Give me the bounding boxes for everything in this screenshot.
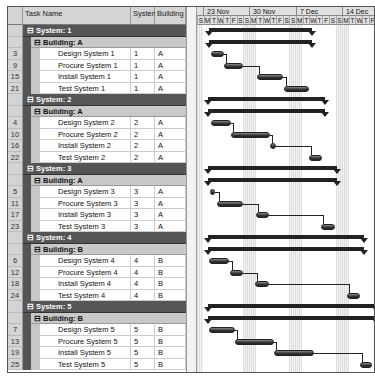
summary-bar[interactable] [208, 247, 364, 251]
summary-bar[interactable] [208, 97, 325, 101]
building-group-header[interactable]: ⊟Building: A [31, 175, 186, 187]
building-cell[interactable]: B [155, 267, 186, 279]
task-name-cell[interactable]: Procure System 5 [40, 336, 131, 348]
system-cell[interactable]: 3 [131, 186, 155, 198]
task-name-cell[interactable]: Test System 4 [40, 290, 131, 302]
task-name-cell[interactable]: Design System 5 [40, 324, 131, 336]
column-header-system[interactable]: System [131, 7, 155, 25]
system-cell[interactable]: 3 [131, 198, 155, 210]
row-number[interactable]: 7 [8, 324, 23, 336]
system-cell[interactable]: 5 [131, 324, 155, 336]
system-cell[interactable]: 4 [131, 278, 155, 290]
system-cell[interactable]: 1 [131, 71, 155, 83]
task-row[interactable]: 15Install System 11A [8, 71, 186, 83]
building-group-header[interactable]: ⊟Building: A [31, 37, 186, 49]
system-group-header[interactable]: ⊟System: 5 [23, 301, 186, 313]
row-number[interactable]: 25 [8, 359, 23, 371]
building-group-header[interactable]: ⊟Building: B [31, 313, 186, 325]
task-row[interactable]: 22Test System 22A [8, 152, 186, 164]
building-group-header[interactable]: ⊟Building: A [31, 106, 186, 118]
task-bar[interactable] [224, 63, 243, 69]
system-cell[interactable]: 5 [131, 347, 155, 359]
task-bar[interactable] [211, 120, 231, 126]
task-bar[interactable] [211, 51, 224, 57]
task-name-cell[interactable]: Test System 1 [40, 83, 131, 95]
summary-bar[interactable] [208, 316, 374, 320]
task-bar[interactable] [209, 327, 235, 333]
row-number[interactable]: 24 [8, 290, 23, 302]
row-number[interactable] [8, 37, 23, 49]
system-cell[interactable]: 4 [131, 290, 155, 302]
summary-bar[interactable] [208, 109, 325, 113]
task-bar[interactable] [217, 201, 243, 207]
summary-bar[interactable] [209, 28, 312, 32]
dependency-link[interactable] [224, 54, 227, 63]
row-number[interactable] [8, 163, 23, 175]
task-row[interactable]: 12Procure System 44B [8, 267, 186, 279]
task-bar[interactable] [257, 74, 283, 80]
task-row[interactable]: 4Design System 22A [8, 117, 186, 129]
dependency-link[interactable] [229, 261, 233, 270]
system-group-row[interactable]: ⊟System: 5 [8, 301, 186, 313]
task-bar[interactable] [284, 86, 309, 92]
building-cell[interactable]: B [155, 359, 186, 371]
task-bar[interactable] [360, 362, 372, 368]
task-row[interactable]: 7Design System 55B [8, 324, 186, 336]
dependency-link[interactable] [235, 330, 238, 339]
task-row[interactable]: 25Test System 55B [8, 359, 186, 371]
task-row[interactable]: 16Install System 22A [8, 140, 186, 152]
task-row[interactable]: 3Design System 11A [8, 48, 186, 60]
row-number[interactable]: 9 [8, 60, 23, 72]
task-row[interactable]: 17Install System 33A [8, 209, 186, 221]
task-name-cell[interactable]: Install System 2 [40, 140, 131, 152]
building-group-row[interactable]: ⊟Building: A [8, 175, 186, 187]
row-number[interactable]: 4 [8, 117, 23, 129]
building-group-row[interactable]: ⊟Building: B [8, 244, 186, 256]
row-number[interactable] [8, 244, 23, 256]
dependency-link[interactable] [269, 215, 324, 224]
system-cell[interactable]: 2 [131, 117, 155, 129]
row-number[interactable] [8, 301, 23, 313]
column-header-building[interactable]: Building [155, 7, 186, 25]
dependency-link[interactable] [243, 273, 258, 282]
system-group-header[interactable]: ⊟System: 1 [23, 25, 186, 37]
collapse-icon[interactable]: ⊟ [34, 107, 41, 116]
task-bar[interactable] [347, 293, 360, 299]
task-row[interactable]: 10Procure System 22A [8, 129, 186, 141]
task-bar[interactable] [231, 132, 270, 138]
system-cell[interactable]: 1 [131, 48, 155, 60]
collapse-icon[interactable]: ⊟ [27, 164, 34, 173]
task-name-cell[interactable]: Procure System 2 [40, 129, 131, 141]
summary-bar[interactable] [208, 235, 364, 239]
building-cell[interactable]: A [155, 60, 186, 72]
task-name-cell[interactable]: Install System 4 [40, 278, 131, 290]
summary-bar[interactable] [208, 166, 337, 170]
row-number[interactable]: 12 [8, 267, 23, 279]
collapse-icon[interactable]: ⊟ [27, 26, 34, 35]
task-name-cell[interactable]: Procure System 4 [40, 267, 131, 279]
task-bar[interactable] [235, 339, 274, 345]
summary-bar[interactable] [208, 304, 374, 308]
dependency-link[interactable] [314, 353, 363, 362]
system-group-row[interactable]: ⊟System: 2 [8, 94, 186, 106]
summary-bar[interactable] [209, 40, 312, 44]
row-number[interactable]: 23 [8, 221, 23, 233]
building-group-row[interactable]: ⊟Building: A [8, 106, 186, 118]
building-cell[interactable]: A [155, 186, 186, 198]
dependency-link[interactable] [270, 135, 273, 144]
task-name-cell[interactable]: Test System 3 [40, 221, 131, 233]
building-cell[interactable]: B [155, 336, 186, 348]
task-row[interactable]: 21Test System 11A [8, 83, 186, 95]
building-cell[interactable]: A [155, 48, 186, 60]
system-cell[interactable]: 1 [131, 83, 155, 95]
row-number[interactable]: 5 [8, 186, 23, 198]
task-bar[interactable] [230, 270, 243, 276]
task-name-cell[interactable]: Design System 3 [40, 186, 131, 198]
task-row[interactable]: 13Procure System 55B [8, 336, 186, 348]
building-cell[interactable]: B [155, 290, 186, 302]
collapse-icon[interactable]: ⊟ [27, 95, 34, 104]
task-name-cell[interactable]: Procure System 1 [40, 60, 131, 72]
task-row[interactable]: 11Procure System 33A [8, 198, 186, 210]
task-bar[interactable] [209, 258, 229, 264]
summary-bar[interactable] [208, 178, 337, 182]
